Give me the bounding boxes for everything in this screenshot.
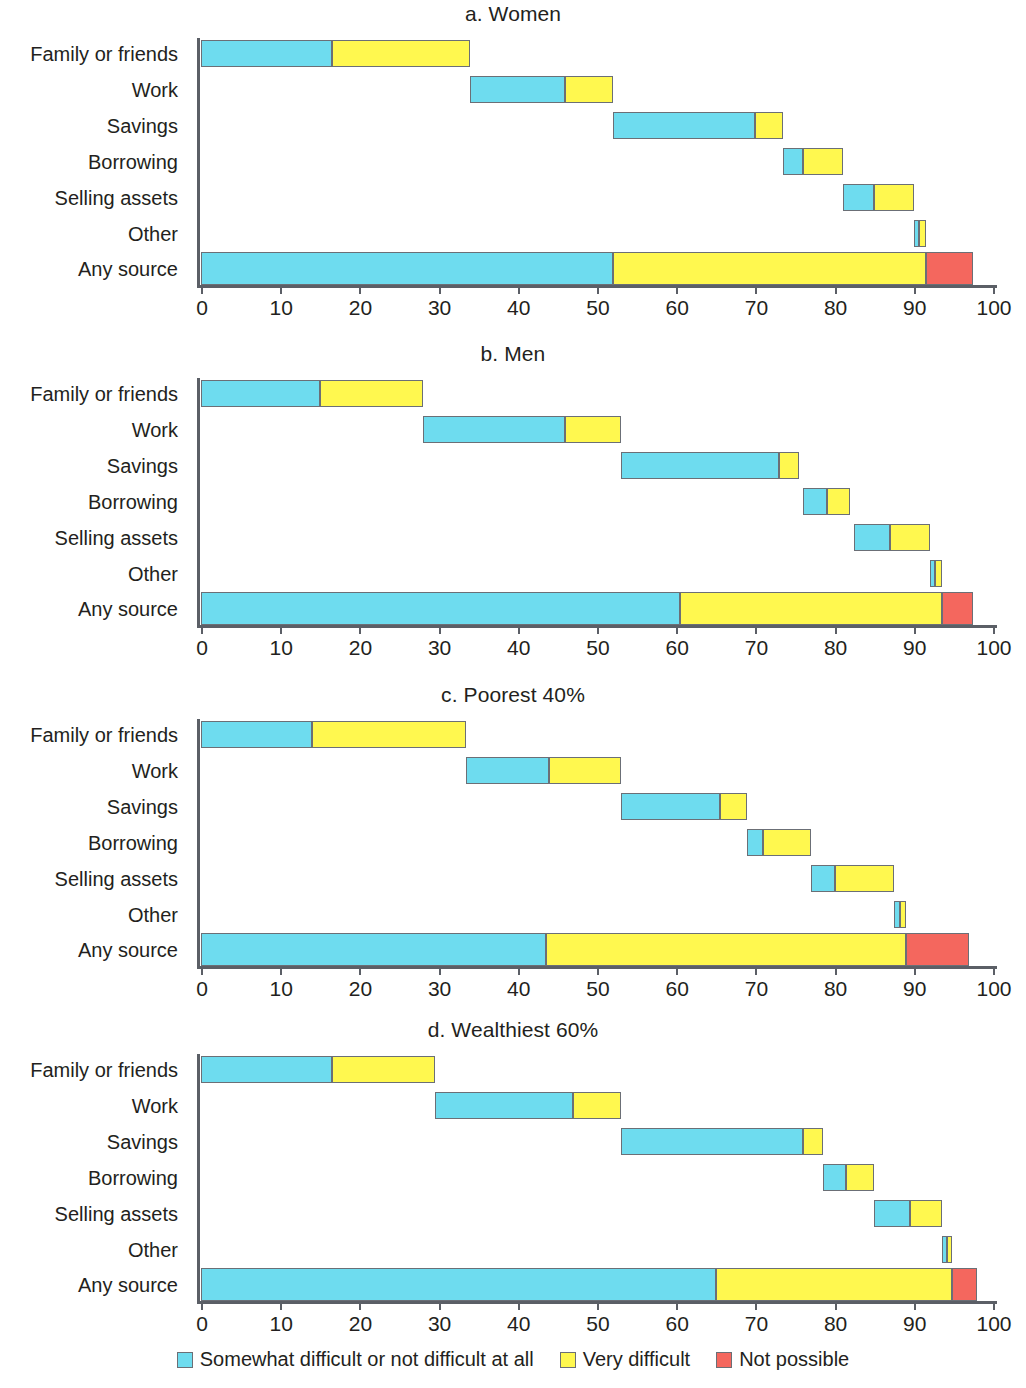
category-label: Selling assets: [55, 1204, 178, 1224]
bar-segment: [201, 721, 312, 748]
category-label: Other: [128, 905, 178, 925]
bar-segment: [803, 488, 827, 515]
category-label: Any source: [78, 259, 178, 279]
bar-selling-assets: [201, 184, 993, 211]
bar-segment: [755, 112, 783, 139]
bar-segment: [854, 524, 890, 551]
panel-title: c. Poorest 40%: [0, 683, 1026, 707]
x-tick-label: 20: [349, 977, 372, 1001]
bar-selling-assets: [201, 865, 993, 892]
category-label: Other: [128, 224, 178, 244]
bar-borrowing: [201, 488, 993, 515]
plot-area: [201, 38, 993, 285]
x-tick-mark: [439, 625, 441, 634]
bar-savings: [201, 112, 993, 139]
x-axis-ticks: 0102030405060708090100: [201, 1301, 1001, 1345]
bar-work: [201, 757, 993, 784]
x-tick-mark: [439, 966, 441, 975]
category-axis-labels: Family or friendsWorkSavingsBorrowingSel…: [0, 378, 190, 625]
bar-segment: [201, 933, 546, 966]
legend-item: Very difficult: [560, 1348, 690, 1371]
x-tick-label: 10: [270, 296, 293, 320]
x-tick-mark: [201, 1301, 203, 1310]
x-axis-ticks: 0102030405060708090100: [201, 966, 1001, 1010]
x-tick-label: 60: [666, 977, 689, 1001]
bar-segment: [201, 1268, 716, 1301]
bar-segment: [803, 148, 843, 175]
category-label: Borrowing: [88, 152, 178, 172]
bar-segment: [613, 112, 756, 139]
x-tick-mark: [518, 1301, 520, 1310]
bar-family-or-friends: [201, 380, 993, 407]
bar-other: [201, 1236, 993, 1263]
x-tick-label: 30: [428, 296, 451, 320]
bar-segment: [423, 416, 566, 443]
bar-segment: [720, 793, 748, 820]
x-tick-mark: [518, 966, 520, 975]
x-tick-label: 60: [666, 296, 689, 320]
bar-segment: [201, 252, 613, 285]
x-tick-mark: [676, 1301, 678, 1310]
x-tick-mark: [439, 1301, 441, 1310]
x-tick-label: 80: [824, 1312, 847, 1336]
bar-segment: [779, 452, 799, 479]
bar-borrowing: [201, 1164, 993, 1191]
bar-work: [201, 416, 993, 443]
bar-segment: [910, 1200, 942, 1227]
bar-segment: [621, 793, 720, 820]
figure-root: a. WomenFamily or friendsWorkSavingsBorr…: [0, 0, 1026, 1388]
x-tick-label: 80: [824, 977, 847, 1001]
bar-other: [201, 220, 993, 247]
x-tick-mark: [439, 285, 441, 294]
x-tick-label: 40: [507, 296, 530, 320]
category-label: Work: [132, 80, 178, 100]
category-label: Selling assets: [55, 528, 178, 548]
x-tick-mark: [835, 625, 837, 634]
y-axis-line: [197, 378, 200, 625]
category-label: Selling assets: [55, 869, 178, 889]
category-axis-labels: Family or friendsWorkSavingsBorrowingSel…: [0, 38, 190, 285]
x-tick-mark: [518, 625, 520, 634]
bar-segment: [716, 1268, 952, 1301]
bar-segment: [874, 1200, 910, 1227]
bar-segment: [435, 1092, 574, 1119]
bar-other: [201, 901, 993, 928]
y-axis-line: [197, 1054, 200, 1301]
category-label: Family or friends: [30, 384, 178, 404]
bar-work: [201, 1092, 993, 1119]
bar-other: [201, 560, 993, 587]
x-axis-ticks: 0102030405060708090100: [201, 625, 1001, 669]
y-axis-line: [197, 719, 200, 966]
x-tick-mark: [755, 285, 757, 294]
x-tick-mark: [280, 285, 282, 294]
bar-segment: [942, 592, 974, 625]
x-tick-mark: [755, 625, 757, 634]
x-tick-mark: [359, 966, 361, 975]
category-label: Family or friends: [30, 725, 178, 745]
x-tick-mark: [676, 625, 678, 634]
x-tick-mark: [280, 966, 282, 975]
x-tick-label: 70: [745, 636, 768, 660]
x-tick-mark: [914, 285, 916, 294]
x-tick-label: 90: [903, 977, 926, 1001]
bar-segment: [919, 220, 925, 247]
x-tick-mark: [993, 1301, 995, 1310]
x-tick-label: 40: [507, 977, 530, 1001]
x-tick-mark: [359, 1301, 361, 1310]
bar-segment: [201, 40, 332, 67]
category-label: Borrowing: [88, 1168, 178, 1188]
x-tick-label: 40: [507, 636, 530, 660]
bar-segment: [783, 148, 803, 175]
legend-item: Not possible: [716, 1348, 849, 1371]
bar-segment: [827, 488, 851, 515]
category-label: Savings: [107, 1132, 178, 1152]
chart-legend: Somewhat difficult or not difficult at a…: [0, 1348, 1026, 1371]
bar-segment: [332, 1056, 435, 1083]
x-tick-label: 50: [586, 1312, 609, 1336]
bar-segment: [466, 757, 549, 784]
legend-swatch-icon: [177, 1352, 193, 1368]
bar-any-source: [201, 252, 993, 285]
bar-family-or-friends: [201, 721, 993, 748]
x-tick-label: 0: [196, 977, 208, 1001]
category-label: Savings: [107, 116, 178, 136]
